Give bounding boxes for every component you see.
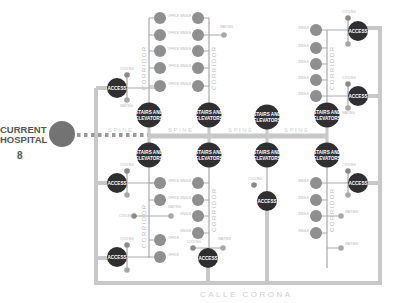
svg-text:STAIRS AND: STAIRS AND <box>313 150 341 155</box>
svg-text:STAIRS AND: STAIRS AND <box>253 150 281 155</box>
svg-text:ACCESS: ACCESS <box>348 29 367 34</box>
corridor-label: CORRIDOR <box>329 45 335 90</box>
svg-text:OFFICE: OFFICE <box>168 14 179 18</box>
svg-text:COOLING: COOLING <box>120 237 135 241</box>
svg-text:SINGLE: SINGLE <box>298 179 309 183</box>
svg-text:ACCESS: ACCESS <box>107 255 126 260</box>
svg-text:SINGLE: SINGLE <box>180 179 191 183</box>
svg-text:SINGLE: SINGLE <box>298 92 309 96</box>
spine-label: SPINE <box>228 127 254 133</box>
svg-text:SINGLE: SINGLE <box>298 60 309 64</box>
svg-text:COOLING: COOLING <box>342 10 357 14</box>
svg-text:SINGLE: SINGLE <box>180 64 191 68</box>
current-hospital-node <box>49 121 75 147</box>
svg-text:ACCESS: ACCESS <box>198 256 217 261</box>
svg-text:ACCESS: ACCESS <box>348 181 367 186</box>
svg-text:OFFICE: OFFICE <box>168 253 179 257</box>
svg-text:SINGLE: SINGLE <box>298 44 309 48</box>
svg-text:OFFICE: OFFICE <box>168 196 179 200</box>
svg-text:ELEVATORS: ELEVATORS <box>313 156 340 161</box>
svg-text:COOLING: COOLING <box>119 214 134 218</box>
svg-text:ACCESS: ACCESS <box>348 94 367 99</box>
svg-text:OFFICE: OFFICE <box>168 82 179 86</box>
svg-text:SINGLE: SINGLE <box>180 196 191 200</box>
svg-text:ACCESS: ACCESS <box>107 86 126 91</box>
svg-text:SINGLE: SINGLE <box>180 229 191 233</box>
svg-text:ACCESS: ACCESS <box>107 181 126 186</box>
svg-text:WAITING: WAITING <box>345 242 358 246</box>
svg-text:OFFICE: OFFICE <box>168 47 179 51</box>
svg-text:OFFICE: OFFICE <box>168 64 179 68</box>
svg-text:SINGLE: SINGLE <box>180 31 191 35</box>
hospital-circulation-diagram: OFFICE OFFICE OFFICE OFFICE OFFICE SINGL… <box>0 0 399 303</box>
svg-text:STAIRS AND: STAIRS AND <box>313 110 341 115</box>
svg-text:WAITING: WAITING <box>220 25 233 29</box>
svg-text:OFFICE: OFFICE <box>168 179 179 183</box>
svg-text:SINGLE: SINGLE <box>298 212 309 216</box>
svg-text:COOLING: COOLING <box>248 177 263 181</box>
svg-text:COOLING: COOLING <box>187 240 202 244</box>
svg-text:STAIRS AND: STAIRS AND <box>195 150 223 155</box>
svg-text:WAITING: WAITING <box>342 111 355 115</box>
corridor-label: CORRIDOR <box>329 187 335 232</box>
svg-text:WAITING: WAITING <box>120 104 133 108</box>
svg-text:STAIRS AND: STAIRS AND <box>135 110 163 115</box>
svg-text:ELEVATORS: ELEVATORS <box>135 156 162 161</box>
svg-text:ELEVATORS: ELEVATORS <box>253 156 280 161</box>
hospital-label-2: HOSPITAL <box>0 134 48 145</box>
svg-text:SINGLE: SINGLE <box>180 47 191 51</box>
svg-text:SINGLE: SINGLE <box>180 14 191 18</box>
svg-text:SINGLE: SINGLE <box>298 26 309 30</box>
svg-text:STAIRS AND: STAIRS AND <box>253 112 281 117</box>
svg-text:OFFICE: OFFICE <box>168 31 179 35</box>
svg-text:ELEVATORS: ELEVATORS <box>253 118 280 123</box>
svg-text:ELEVATORS: ELEVATORS <box>195 156 222 161</box>
corridor-label: CORRIDOR <box>141 203 147 248</box>
svg-text:WAITING: WAITING <box>218 237 231 241</box>
svg-text:STAIRS AND: STAIRS AND <box>195 110 223 115</box>
svg-text:ELEVATORS: ELEVATORS <box>135 116 162 121</box>
street-label: CALLE CORONA <box>200 290 293 299</box>
svg-text:WAITING: WAITING <box>168 205 181 209</box>
svg-text:ELEVATORS: ELEVATORS <box>313 116 340 121</box>
svg-text:COOLING: COOLING <box>120 163 135 167</box>
svg-text:SINGLE: SINGLE <box>180 212 191 216</box>
corridor-label: CORRIDOR <box>141 45 147 90</box>
corridor-label: CORRIDOR <box>211 187 217 232</box>
svg-text:SINGLE: SINGLE <box>180 82 191 86</box>
svg-text:STAIRS AND: STAIRS AND <box>135 150 163 155</box>
corridor-label: CORRIDOR <box>211 45 217 90</box>
spine-label: SPINE <box>108 127 134 133</box>
spine-label: SPINE <box>168 127 194 133</box>
svg-text:SINGLE: SINGLE <box>298 76 309 80</box>
svg-text:OFFICE: OFFICE <box>168 236 179 240</box>
svg-text:SINGLE: SINGLE <box>298 229 309 233</box>
svg-text:COOLING: COOLING <box>342 76 357 80</box>
svg-text:WAITING: WAITING <box>345 210 358 214</box>
svg-text:COOLING: COOLING <box>120 67 135 71</box>
svg-text:SINGLE: SINGLE <box>298 196 309 200</box>
spine-label: SPINE <box>284 127 310 133</box>
svg-text:COOLING: COOLING <box>342 163 357 167</box>
svg-text:ACCESS: ACCESS <box>257 199 276 204</box>
hospital-number: 8 <box>17 150 23 161</box>
svg-text:ELEVATORS: ELEVATORS <box>195 116 222 121</box>
